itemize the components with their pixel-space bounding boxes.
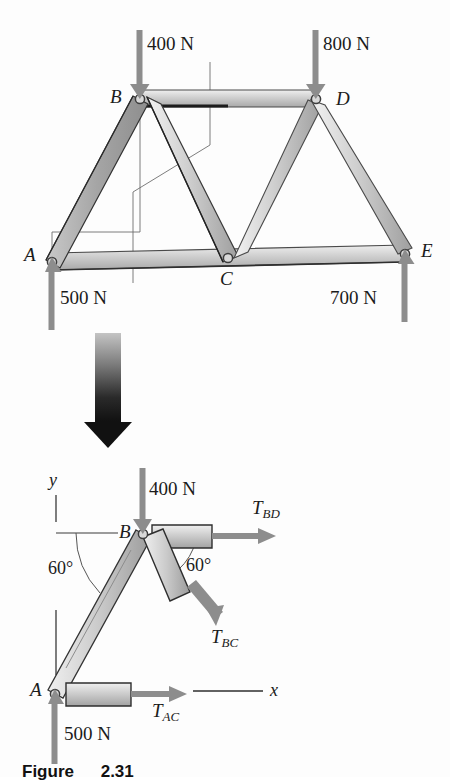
truss-force-label-700N: 700 N [330,287,377,309]
member-BD [140,90,316,107]
fbd-angle-label-right: 60° [186,555,211,576]
fbd-x-axis-label: x [270,680,278,701]
fbd-joint-label-B: B [119,521,131,543]
member-BC [147,97,238,262]
fbd-force-label-500N: 500 N [64,723,111,745]
truss-force-label-400N: 400 N [147,33,194,55]
tension-symbol-BC: T [211,626,222,647]
fbd-y-axis-label: y [49,470,57,491]
fbd-tension-label-AC: TAC [152,700,179,725]
truss-joint-label-D: D [336,88,350,110]
fbd-tension-label-BD: TBD [252,497,280,522]
fbd-angle-label-left: 60° [48,558,73,579]
tension-symbol-BD: T [252,497,263,518]
fbd-member-AB [48,530,151,698]
down-arrow-icon [84,333,132,448]
angle-arc-left [76,533,100,593]
figure-caption-label: Figure [22,762,74,781]
figure-caption: Figure 2.31 [22,762,134,782]
tension-subscript-BD: BD [263,506,280,521]
truss-force-label-800N: 800 N [323,33,370,55]
truss-force-label-500N: 500 N [60,287,107,309]
truss-joint-label-A: A [24,244,36,266]
truss-joint-label-B: B [110,86,122,108]
fbd-member-AC-stub [66,683,131,706]
figure-caption-number: 2.31 [101,762,134,781]
tension-subscript-BC: BC [222,635,239,650]
member-DE [311,100,412,254]
fbd-tension-label-BC: TBC [211,626,238,651]
truss-joint-label-C: C [220,268,233,290]
fbd-force-label-400N: 400 N [149,478,196,500]
member-CD [234,100,322,258]
fbd-joint-label-A: A [30,679,42,701]
tension-subscript-AC: AC [163,709,180,724]
tension-symbol-AC: T [152,700,163,721]
truss-joint-label-E: E [421,240,433,262]
transition-arrow [0,325,450,455]
